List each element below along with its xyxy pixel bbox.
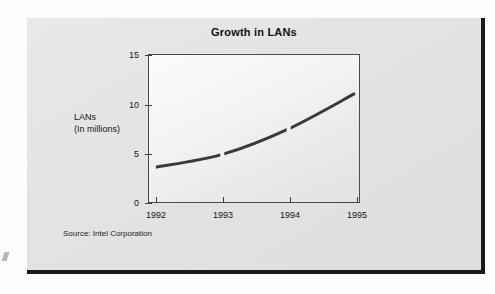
x-tick-label-1993: 1993 [213,210,233,220]
y-axis-title-line-2: (In millions) [74,123,120,135]
series-segments [156,93,355,167]
x-tick-label-1992: 1992 [146,210,166,220]
y-tick-0: 0 [145,203,152,204]
series-segment [222,129,288,155]
scan-page: Growth in LANs LANs (In millions) 15 10 … [0,0,495,294]
data-series-line [149,55,359,203]
scan-artifact-mark [2,252,10,261]
y-tick-label-10: 10 [129,100,139,110]
x-tick-label-1995: 1995 [347,210,367,220]
series-segment [156,154,222,167]
data-point-break [287,126,291,132]
chart-title: Growth in LANs [27,26,481,38]
source-note: Source: Intel Corporation [63,229,152,238]
x-tick-label-1994: 1994 [280,210,300,220]
y-axis-title: LANs (In millions) [74,111,120,135]
series-segment [289,93,355,128]
figure-panel: Growth in LANs LANs (In millions) 15 10 … [27,18,485,274]
y-tick-label-0: 0 [134,198,139,208]
y-tick-label-15: 15 [129,50,139,60]
y-axis-title-line-1: LANs [74,111,120,123]
data-point-break [220,151,224,157]
y-tick-label-5: 5 [134,149,139,159]
plot-area: 15 10 5 0 1992 1993 1994 1995 [148,54,360,203]
